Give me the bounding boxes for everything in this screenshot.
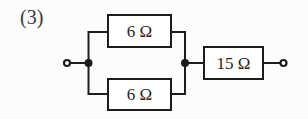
circuit-diagram-svg: (3) 6 Ω 6 Ω 15 Ω (0, 0, 308, 119)
terminal-left-icon (64, 60, 70, 66)
resistor-value-parallel-bottom: 6 Ω (127, 85, 152, 104)
resistor-value-parallel-top: 6 Ω (127, 22, 152, 41)
figure-label: (3) (20, 6, 43, 29)
terminal-right-icon (281, 60, 287, 66)
circuit-figure: (3) 6 Ω 6 Ω 15 Ω (0, 0, 308, 119)
junction-dot-left (85, 59, 93, 67)
junction-dot-right (181, 59, 189, 67)
resistor-value-series: 15 Ω (217, 54, 251, 73)
